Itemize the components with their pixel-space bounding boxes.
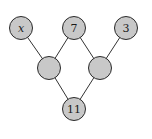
node-x: x — [10, 17, 33, 40]
node-7: 7 — [63, 17, 86, 40]
node-x-label: x — [18, 22, 25, 35]
node-11: 11 — [63, 98, 86, 121]
node-7-label: 7 — [71, 22, 78, 35]
node-mid-right-empty — [89, 57, 112, 80]
node-3: 3 — [115, 17, 138, 40]
number-tree-diagram: x 7 3 11 — [0, 0, 152, 139]
nodes: x 7 3 11 — [10, 17, 138, 121]
node-11-label: 11 — [67, 103, 81, 116]
node-mid-left-empty — [38, 57, 61, 80]
node-3-label: 3 — [123, 22, 130, 35]
